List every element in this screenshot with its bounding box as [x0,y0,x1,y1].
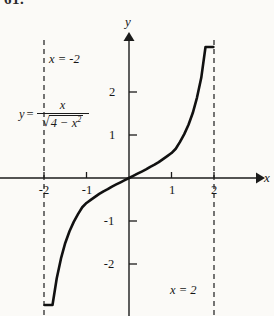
equation-fraction: x √ 4 − x2 [37,99,89,130]
y-axis [124,32,135,316]
radicand: 4 − x2 [49,115,83,130]
y-tick-label-neg1: -1 [98,214,120,229]
equation-annotation: y = x √ 4 − x2 [19,99,89,130]
x-axis [0,173,265,184]
radical-expression: √ 4 − x2 [42,115,83,130]
radicand-base: 4 − x [51,116,77,130]
graph-figure: 61. y [0,0,274,316]
asymptote-right-label: x = 2 [170,283,196,298]
y-tick-label-neg2: -2 [98,257,120,272]
y-tick-label-pos1: 1 [101,128,123,143]
asymptote-left-label: x = -2 [49,52,80,67]
equation-numerator: x [54,99,72,113]
equation-denominator: √ 4 − x2 [40,114,85,130]
y-axis-label: y [125,14,131,30]
x-tick-label-neg1: -1 [76,183,98,198]
x-tick-label-pos1: 1 [161,183,183,198]
x-tick-label-neg2: -2 [33,183,55,198]
y-tick-label-pos2: 2 [101,85,123,100]
equation-equals-sign: = [27,108,34,121]
x-tick-label-pos2: 2 [203,183,225,198]
equation-lhs: y [19,108,25,121]
coordinate-plane [0,0,274,316]
x-axis-label: x [264,170,270,186]
radicand-exponent: 2 [77,114,81,123]
